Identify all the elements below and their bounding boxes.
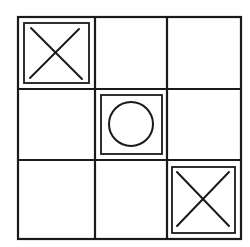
tic-tac-toe-board: [0, 0, 250, 247]
cell-0-0[interactable]: [24, 23, 89, 83]
cell-1-1[interactable]: [101, 95, 162, 154]
cell-0-2[interactable]: [168, 18, 240, 88]
x-mark-icon: [30, 28, 82, 79]
cell-2-0[interactable]: [19, 161, 94, 238]
x-mark-icon: [177, 172, 229, 226]
cell-1-2[interactable]: [168, 90, 240, 159]
cell-2-1[interactable]: [96, 161, 166, 238]
cell-0-1[interactable]: [96, 18, 166, 88]
cell-2-2[interactable]: [172, 167, 235, 233]
cell-1-0[interactable]: [19, 90, 94, 159]
o-mark-icon: [109, 102, 153, 146]
